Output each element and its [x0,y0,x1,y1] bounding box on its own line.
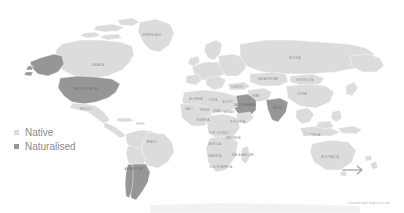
world-map-figure: GREENLANDCANADAUNITED STATESMEXICOBRAZIL… [0,0,404,213]
map-label-mexico: MEXICO [80,107,92,111]
map-label-argentina: ARGENTINA [125,167,143,171]
map-label-turkey: TURKEY [231,85,244,89]
map-legend: Native Naturalised [14,127,76,152]
map-label-nigeria: NIGERIA [196,118,209,122]
map-label-sudan: SUDAN [224,110,235,114]
map-label-angola: ANGOLA [209,142,222,146]
map-label-canada: CANADA [92,63,105,67]
map-label-ethiopia: ETHIOPIA [231,120,246,124]
map-label-greenland: GREENLAND [142,33,161,37]
map-label-egypt: EGYPT [223,100,234,104]
world-map-svg: GREENLANDCANADAUNITED STATESMEXICOBRAZIL… [0,0,404,213]
map-label-mali: MALI [185,107,192,111]
map-label-india: INDIA [273,106,282,110]
attribution-watermark: Created with mapchart.net [348,201,390,205]
map-label-russia: RUSSIA [289,56,301,60]
legend-swatch-naturalised [14,144,19,149]
map-label-iran: IRAN [252,94,260,98]
map-label-d-r-congo: D.R. CONGO [209,131,228,135]
island-tasmania [340,171,347,176]
island-hispaniola [136,122,145,125]
legend-label-native: Native [25,127,53,138]
map-label-libya: LIBYA [209,98,218,102]
map-label-australia: AUSTRALIA [321,155,339,159]
map-label-tanzania: TANZANIA [225,136,240,140]
map-label-brazil: BRAZIL [146,140,157,144]
map-label-saudi-arabia: SAUDI ARABIA [234,103,256,107]
map-label-algeria: ALGERIA [189,97,203,101]
map-label-chad: CHAD [213,109,222,113]
map-label-united-states: UNITED STATES [74,87,99,91]
map-label-madagascar: MADAGASCAR [232,153,254,157]
map-label-mongolia: MONGOLIA [297,78,314,82]
map-label-indonesia: INDONESIA [303,133,320,137]
map-label-namibia: NAMIBIA [208,154,221,158]
map-label-china: CHINA [297,92,307,96]
legend-swatch-native [14,130,19,135]
legend-label-naturalised: Naturalised [25,141,76,152]
map-label-south-africa: SOUTH AFRICA [209,165,232,169]
map-label-kazakhstan: KAZAKHSTAN [258,77,279,81]
legend-item-native: Native [14,127,76,138]
map-label-niger: NIGER [200,108,210,112]
legend-item-naturalised: Naturalised [14,141,76,152]
